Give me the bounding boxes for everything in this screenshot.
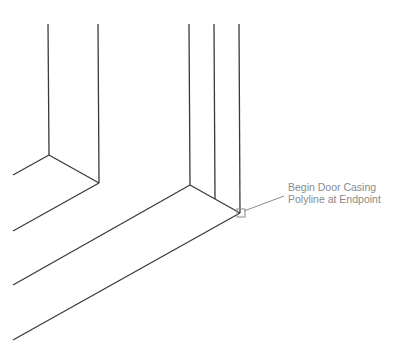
left-wall-inner-vertical-line (48, 24, 49, 155)
left-wall-outer-vertical-line (98, 24, 99, 183)
callout-leader-line (244, 196, 284, 211)
jamb-vertical-1-line (189, 24, 190, 185)
left-floor-back-line (13, 155, 49, 175)
floor-line-back-line (13, 185, 190, 285)
floor-line-front-line (13, 213, 240, 340)
jamb-vertical-3-line (239, 24, 240, 213)
callout-label: Begin Door Casing Polyline at Endpoint (288, 181, 381, 205)
drawing-canvas (0, 0, 397, 346)
left-floor-front-line (13, 183, 99, 231)
left-wall-top-edge-line (49, 155, 99, 183)
jamb-vertical-2-line (214, 24, 215, 199)
callout-line-2: Polyline at Endpoint (288, 193, 381, 205)
door-jamb-drawing (13, 24, 240, 340)
callout-line-1: Begin Door Casing (288, 181, 381, 193)
endpoint-snap-marker (237, 209, 245, 217)
